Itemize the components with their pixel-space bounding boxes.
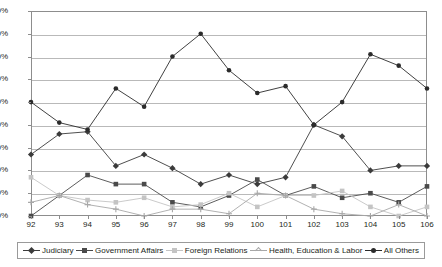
x-axis-tick-label: 103 (327, 220, 357, 229)
data-point-marker (255, 205, 260, 210)
legend-item-government-affairs[interactable]: Government Affairs (76, 246, 163, 255)
data-point-marker (170, 54, 175, 59)
data-point-marker (113, 206, 119, 212)
x-axis-tick (116, 216, 117, 219)
y-axis-tick (28, 148, 31, 149)
y-axis-tick-label: 70% (0, 53, 8, 61)
legend-marker-icon (76, 246, 93, 255)
series-layer (31, 11, 427, 216)
data-point-marker (311, 206, 317, 212)
data-point-marker (227, 191, 232, 196)
x-axis-tick (172, 216, 173, 219)
legend-marker-icon (365, 246, 382, 255)
data-point-marker (283, 84, 288, 89)
x-axis-tick-label: 104 (355, 220, 385, 229)
y-axis-tick (28, 193, 31, 194)
data-point-marker (198, 181, 204, 187)
data-point-marker (85, 202, 91, 208)
x-axis-tick (31, 216, 32, 219)
y-axis-tick-label: 50% (0, 98, 8, 106)
y-axis-tick-label: 20% (0, 166, 8, 174)
data-series (29, 31, 430, 131)
data-point-marker (142, 182, 147, 187)
y-axis-tick-label: 0% (0, 212, 8, 220)
x-axis-tick (427, 216, 428, 219)
x-axis-tick-label: 100 (242, 220, 272, 229)
data-point-marker (368, 191, 373, 196)
data-point-marker (198, 31, 203, 36)
data-point-marker (425, 184, 430, 189)
y-axis-tick-label: 80% (0, 30, 8, 38)
data-point-marker (340, 189, 345, 194)
x-axis-tick-label: 92 (16, 220, 46, 229)
x-axis-tick-label: 96 (129, 220, 159, 229)
x-axis-tick-label: 105 (384, 220, 414, 229)
data-point-marker (141, 151, 147, 157)
data-point-marker (226, 172, 232, 178)
x-axis-tick (201, 216, 202, 219)
data-point-marker (29, 175, 34, 180)
legend-label: All Others (384, 246, 419, 255)
x-axis-tick (59, 216, 60, 219)
legend-label: Health, Education & Labor (269, 246, 362, 255)
legend-label: Foreign Relations (185, 246, 248, 255)
data-point-marker (170, 200, 175, 205)
chart-title (0, 0, 442, 9)
x-axis-tick-label: 102 (299, 220, 329, 229)
data-point-marker (396, 163, 402, 169)
data-point-marker (425, 205, 430, 210)
legend-item-all-others[interactable]: All Others (365, 246, 419, 255)
x-axis-tick (399, 216, 400, 219)
legend-item-foreign-relations[interactable]: Foreign Relations (166, 246, 248, 255)
x-axis-tick (342, 216, 343, 219)
data-point-marker (396, 63, 401, 68)
y-axis-tick-label: 60% (0, 75, 8, 83)
y-axis-tick-label: 30% (0, 144, 8, 152)
x-axis-tick-label: 95 (101, 220, 131, 229)
x-axis-tick (286, 216, 287, 219)
data-point-marker (56, 131, 62, 137)
data-point-marker (368, 205, 373, 210)
data-point-marker (255, 177, 260, 182)
x-axis-tick (144, 216, 145, 219)
x-axis-tick-label: 98 (186, 220, 216, 229)
x-axis-tick (370, 216, 371, 219)
legend-item-health-education-labor[interactable]: Health, Education & Labor (250, 246, 362, 255)
x-axis-tick (229, 216, 230, 219)
x-axis-tick-label: 101 (271, 220, 301, 229)
x-axis-tick (257, 216, 258, 219)
y-axis-tick (28, 79, 31, 80)
y-axis-tick-label: 40% (0, 121, 8, 129)
data-point-marker (169, 165, 175, 171)
y-axis-tick (28, 11, 31, 12)
legend-label: Government Affairs (95, 246, 163, 255)
data-point-marker (85, 127, 90, 132)
data-point-marker (114, 182, 119, 187)
legend-marker-icon (166, 246, 183, 255)
data-point-marker (282, 174, 288, 180)
data-point-marker (340, 195, 345, 200)
y-axis-tick (28, 57, 31, 58)
data-point-marker (142, 195, 147, 200)
y-axis-tick (28, 170, 31, 171)
data-point-marker (254, 181, 260, 187)
series-line (31, 34, 427, 130)
data-point-marker (424, 163, 430, 169)
y-axis-tick-label: 90% (0, 7, 8, 15)
x-axis-tick (88, 216, 89, 219)
data-point-marker (425, 86, 430, 91)
data-point-marker (227, 68, 232, 73)
data-point-marker (28, 199, 34, 205)
data-point-marker (57, 120, 62, 125)
data-point-marker (142, 104, 147, 109)
legend-marker-icon (250, 246, 267, 255)
line-chart: 0%10%20%30%40%50%60%70%80%90%92939495969… (0, 0, 442, 267)
x-axis-tick-label: 106 (412, 220, 442, 229)
data-point-marker (312, 184, 317, 189)
data-point-marker (368, 52, 373, 57)
legend-item-judiciary[interactable]: Judiciary (23, 246, 74, 255)
data-point-marker (312, 193, 317, 198)
data-point-marker (114, 200, 119, 205)
chart-legend: JudiciaryGovernment AffairsForeign Relat… (17, 242, 425, 259)
y-axis-tick (28, 34, 31, 35)
